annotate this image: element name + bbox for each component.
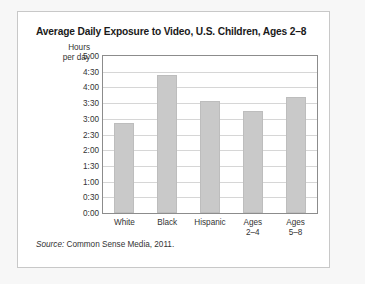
x-axis-tick-label: Ages 2–4 bbox=[243, 218, 262, 237]
x-axis-tick-label: Black bbox=[157, 218, 177, 228]
x-axis-tick-label: Ages 5–8 bbox=[286, 218, 305, 237]
y-axis-tick-label: 5:00 bbox=[83, 52, 99, 61]
bar bbox=[243, 111, 263, 213]
y-axis-tick-label: 4:30 bbox=[83, 67, 99, 76]
y-axis-tick-label: 1:30 bbox=[83, 161, 99, 170]
chart-card: Average Daily Exposure to Video, U.S. Ch… bbox=[17, 11, 330, 268]
y-axis-tick-label: 2:00 bbox=[83, 146, 99, 155]
y-axis-tick-label: 3:30 bbox=[83, 99, 99, 108]
x-axis-tick-label: White bbox=[114, 218, 135, 228]
source-label: Source: bbox=[36, 240, 64, 249]
y-axis-tick-label: 0:30 bbox=[83, 193, 99, 202]
y-axis-tick-label: 0:00 bbox=[83, 209, 99, 218]
bar bbox=[157, 75, 177, 213]
bar bbox=[114, 123, 134, 213]
y-axis-tick-label: 2:30 bbox=[83, 130, 99, 139]
gridline bbox=[103, 87, 317, 88]
bar bbox=[286, 97, 306, 213]
x-axis-tick-label: Hispanic bbox=[194, 218, 225, 228]
y-axis-title: Hours per day bbox=[34, 43, 90, 62]
chart-title: Average Daily Exposure to Video, U.S. Ch… bbox=[36, 26, 321, 37]
page-background: Average Daily Exposure to Video, U.S. Ch… bbox=[0, 0, 365, 284]
y-axis-tick-label: 4:00 bbox=[83, 83, 99, 92]
y-axis-tick-label: 1:00 bbox=[83, 177, 99, 186]
y-axis-title-line1: Hours bbox=[34, 43, 90, 53]
plot-area: 5:004:304:003:303:002:302:001:301:000:30… bbox=[102, 55, 318, 214]
bar bbox=[200, 101, 220, 213]
source-text: Common Sense Media, 2011. bbox=[64, 240, 174, 249]
gridline bbox=[103, 72, 317, 73]
y-axis-tick-label: 3:00 bbox=[83, 114, 99, 123]
y-axis-title-line2: per day bbox=[34, 53, 90, 63]
source-note: Source: Common Sense Media, 2011. bbox=[36, 240, 174, 249]
plot-area-wrapper: 5:004:304:003:303:002:302:001:301:000:30… bbox=[102, 55, 316, 212]
